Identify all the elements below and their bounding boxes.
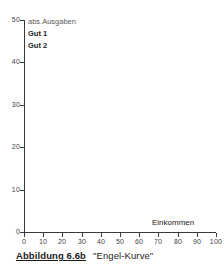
x-tick-mark [197,233,198,237]
x-tick-mark [101,233,102,237]
x-tick-mark [24,233,25,237]
x-tick-label: 100 [204,238,224,246]
x-tick-mark [178,233,179,237]
y-tick-label: 0 [0,228,20,235]
figure-caption-title: "Engel-Kurve" [93,250,153,261]
y-tick-label: 20 [0,143,20,150]
x-tick-mark [139,233,140,237]
y-tick-label: 50 [0,16,20,23]
y-tick-label: 40 [0,58,20,65]
x-tick-mark [216,233,217,237]
x-tick-mark [62,233,63,237]
figure-caption-reference: Abbildung 6.6b [16,250,86,261]
figure-caption: Abbildung 6.6b"Engel-Kurve" [16,250,153,262]
x-tick-mark [43,233,44,237]
y-tick-label: 10 [0,186,20,193]
x-tick-mark [82,233,83,237]
x-tick-mark [158,233,159,237]
y-tick-label: 30 [0,101,20,108]
engel-curve-figure: 01020304050 0102030405060708090100 abs.A… [0,0,224,272]
plot-series-layer [24,20,216,232]
x-tick-mark [120,233,121,237]
